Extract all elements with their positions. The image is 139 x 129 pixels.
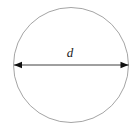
arrowhead-right-icon [121, 62, 129, 68]
arrowhead-left-icon [14, 62, 22, 68]
circle-diameter-figure: d [0, 0, 139, 129]
diameter-label: d [67, 45, 74, 60]
figure-svg-canvas: d [0, 0, 139, 129]
